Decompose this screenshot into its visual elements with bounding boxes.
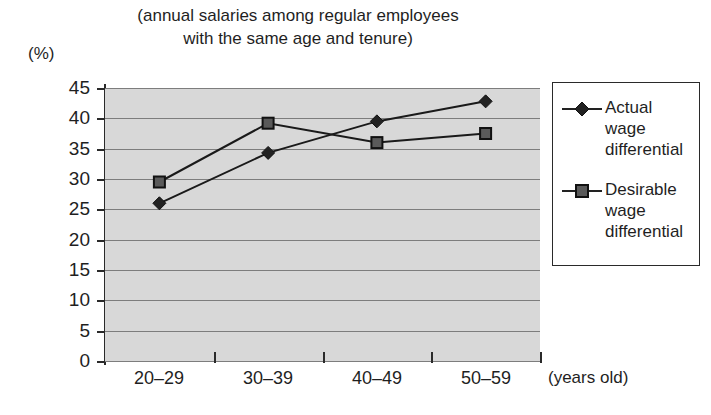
y-tick-label: 0 (20, 351, 90, 370)
series-line-actual (159, 101, 485, 203)
legend-label-desirable: Desirable wage differential (605, 179, 683, 242)
x-tick-label: 40–49 (322, 368, 432, 389)
y-tick (97, 209, 105, 211)
y-tick-label: 45 (20, 78, 90, 97)
series-layer (105, 88, 540, 361)
y-tick (97, 88, 105, 90)
x-tick (214, 352, 216, 363)
data-point-marker (479, 95, 492, 108)
x-tick-label: 50–59 (431, 368, 541, 389)
y-tick-label: 5 (20, 321, 90, 340)
x-tick-label: 30–39 (213, 368, 323, 389)
series-line-desirable (159, 123, 485, 182)
data-point-marker (371, 137, 382, 148)
data-point-marker (154, 177, 165, 188)
y-tick-label: 35 (20, 139, 90, 158)
diamond-marker-icon (561, 98, 603, 120)
x-tick-label: 20–29 (104, 368, 214, 389)
data-point-marker (480, 128, 491, 139)
y-tick-label: 10 (20, 290, 90, 309)
chart-legend: Actual wage differential Desirable wage … (552, 82, 700, 266)
y-tick (97, 331, 105, 333)
y-tick (97, 118, 105, 120)
x-tick (431, 352, 433, 363)
y-tick-label: 40 (20, 108, 90, 127)
y-tick (97, 149, 105, 151)
y-tick (97, 300, 105, 302)
x-tick (323, 352, 325, 363)
y-tick-label: 20 (20, 230, 90, 249)
y-tick (97, 179, 105, 181)
x-tick (540, 352, 542, 363)
y-tick-label: 30 (20, 169, 90, 188)
y-tick (97, 361, 105, 363)
y-tick-label: 25 (20, 199, 90, 218)
legend-item-desirable: Desirable wage differential (561, 179, 683, 242)
y-axis-unit-label: (%) (28, 44, 54, 64)
x-axis-unit-label: (years old) (548, 368, 628, 388)
y-tick-label: 15 (20, 260, 90, 279)
y-tick (97, 270, 105, 272)
plot-area (105, 88, 540, 361)
chart-title: (annual salaries among regular employees… (88, 4, 508, 50)
square-marker-icon (561, 180, 603, 202)
y-tick (97, 240, 105, 242)
data-point-marker (262, 146, 275, 159)
data-point-marker (263, 118, 274, 129)
legend-label-actual: Actual wage differential (605, 97, 683, 160)
data-point-marker (153, 197, 166, 210)
data-point-marker (370, 115, 383, 128)
legend-item-actual: Actual wage differential (561, 97, 683, 160)
